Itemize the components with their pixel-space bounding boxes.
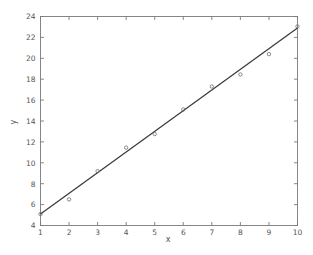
y-axis-tick-labels: 4681012141618202224 (26, 12, 36, 230)
y-tick-label: 20 (26, 54, 36, 63)
data-point-marker (124, 146, 127, 149)
x-tick-label: 7 (209, 228, 214, 237)
y-tick-label: 14 (26, 117, 36, 126)
y-tick-label: 4 (31, 221, 36, 230)
y-tick-label: 18 (26, 75, 36, 84)
data-point-marker (153, 132, 156, 135)
x-tick-label: 10 (293, 228, 303, 237)
x-tick-label: 8 (238, 228, 243, 237)
chart-figure: 12345678910 4681012141618202224 x y (0, 0, 313, 255)
y-tick-label: 12 (26, 138, 36, 147)
y-axis-title: y (9, 119, 18, 124)
x-tick-label: 6 (181, 228, 186, 237)
y-tick-label: 8 (31, 180, 36, 189)
x-axis-title: x (166, 235, 171, 244)
y-tick-label: 16 (26, 96, 36, 105)
y-tick-label: 24 (26, 12, 36, 21)
fitted-regression-line (41, 28, 298, 214)
x-tick-label: 9 (267, 228, 272, 237)
y-tick-label: 6 (31, 200, 36, 209)
x-tick-label: 1 (38, 228, 43, 237)
y-tick-label: 10 (26, 159, 36, 168)
data-point-marker (239, 73, 242, 76)
y-tick-label: 22 (26, 33, 36, 42)
x-tick-label: 3 (95, 228, 100, 237)
x-tick-label: 2 (67, 228, 72, 237)
data-point-marker (267, 52, 270, 55)
data-point-marker (210, 85, 213, 88)
x-tick-label: 4 (124, 228, 129, 237)
data-point-marker (67, 198, 70, 201)
x-tick-label: 5 (152, 228, 157, 237)
scatter-plot-canvas: 12345678910 4681012141618202224 x y (0, 0, 313, 255)
